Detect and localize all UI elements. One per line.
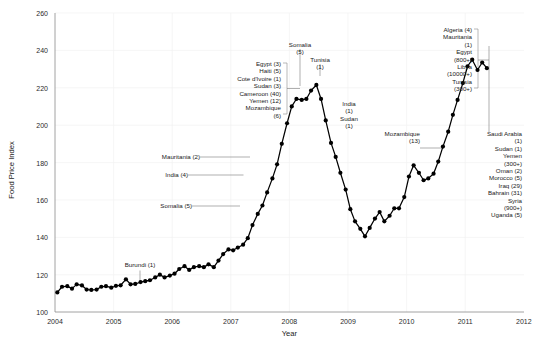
x-tick-2012: 2012 [516, 318, 532, 325]
data-point [368, 226, 372, 230]
data-point [402, 195, 406, 199]
annotation-group-2011-top: Algeria (4) Mauritania (1) Egypt (800+) … [400, 26, 472, 93]
data-point [455, 98, 459, 102]
data-point [231, 248, 235, 252]
data-point [485, 66, 489, 70]
annotation-mozambique-13: Mozambique (13) [358, 130, 420, 145]
x-tick-2010: 2010 [399, 318, 415, 325]
data-point [363, 234, 367, 238]
data-point [314, 83, 318, 87]
y-axis-ticks: 260 240 220 200 180 160 140 120 100 [36, 10, 48, 316]
x-tick-2006: 2006 [164, 318, 180, 325]
data-point [475, 68, 479, 72]
data-point [172, 272, 176, 276]
data-point [436, 159, 440, 163]
y-tick-140: 140 [36, 234, 48, 241]
data-point [431, 172, 435, 176]
data-point [446, 130, 450, 134]
data-point [373, 216, 377, 220]
data-point [60, 285, 64, 289]
x-tick-2008: 2008 [282, 318, 298, 325]
data-point [168, 273, 172, 277]
data-point [338, 171, 342, 175]
y-tick-180: 180 [36, 160, 48, 167]
data-point [109, 286, 113, 290]
data-point [153, 275, 157, 279]
x-axis-title: Year [282, 329, 298, 338]
data-point [95, 287, 99, 291]
data-point [55, 290, 59, 294]
data-point [89, 288, 93, 292]
data-point [197, 264, 201, 268]
data-point [329, 141, 333, 145]
data-point [65, 284, 69, 288]
annotation-group-2008-left: Egypt (3) Haiti (5) Cote d'Ivoire (1) Su… [181, 60, 281, 119]
data-point [124, 277, 128, 281]
data-point [480, 60, 484, 64]
data-point [300, 98, 304, 102]
data-point [378, 210, 382, 214]
data-point [187, 268, 191, 272]
data-point [348, 207, 352, 211]
data-point [206, 262, 210, 266]
data-point [162, 275, 166, 279]
data-point [221, 252, 225, 256]
annotation-somalia-peak: Somalia (5) [276, 41, 324, 56]
data-point [417, 171, 421, 175]
data-point [275, 162, 279, 166]
annotation-india-4: India (4) [126, 171, 188, 178]
data-point [119, 283, 123, 287]
x-tick-2005: 2005 [106, 318, 122, 325]
data-point [260, 203, 264, 207]
data-point [216, 259, 220, 263]
y-tick-160: 160 [36, 197, 48, 204]
data-point [256, 212, 260, 216]
x-tick-2009: 2009 [340, 318, 356, 325]
data-point [451, 113, 455, 117]
data-point [158, 273, 162, 277]
data-point [104, 284, 108, 288]
data-point [250, 223, 254, 227]
y-tick-260: 260 [36, 10, 48, 17]
data-point [304, 97, 308, 101]
data-point [309, 88, 313, 92]
annotation-group-2011-right: Saudi Arabia (1) Sudan (1) Yemen (300+) … [456, 130, 522, 219]
data-point [212, 265, 216, 269]
data-point [426, 176, 430, 180]
y-axis-title: Food Price Index [7, 141, 16, 199]
data-point [319, 97, 323, 101]
annotation-india-sudan: India (1) Sudan (1) [327, 100, 371, 130]
data-point [148, 278, 152, 282]
data-point [241, 243, 245, 247]
data-point [138, 280, 142, 284]
data-point [265, 190, 269, 194]
data-point [412, 163, 416, 167]
y-tick-220: 220 [36, 85, 48, 92]
data-point [80, 283, 84, 287]
data-point [99, 285, 103, 289]
data-point [353, 219, 357, 223]
data-point [358, 227, 362, 231]
y-tick-100: 100 [36, 309, 48, 316]
data-point [192, 265, 196, 269]
x-axis-ticks: 2004 2005 2006 2007 2008 2009 2010 2011 … [47, 318, 531, 325]
data-point [334, 155, 338, 159]
x-tick-2007: 2007 [223, 318, 239, 325]
data-point [421, 178, 425, 182]
data-point [441, 145, 445, 149]
data-point [75, 282, 79, 286]
annotation-burundi: Burundi (1) [96, 261, 184, 268]
y-tick-240: 240 [36, 47, 48, 54]
data-point [280, 142, 284, 146]
data-point [397, 206, 401, 210]
data-point [388, 214, 392, 218]
annotation-somalia-5: Somalia (5) [120, 202, 192, 209]
data-point [70, 287, 74, 291]
annotation-tunisia-2008: Tunisia (1) [297, 56, 343, 71]
data-point [236, 245, 240, 249]
data-point [85, 287, 89, 291]
food-price-index-chart: 260 240 220 200 180 160 140 120 100 2004… [0, 0, 534, 347]
x-tick-2011: 2011 [458, 318, 473, 325]
data-point [270, 176, 274, 180]
data-point [382, 219, 386, 223]
